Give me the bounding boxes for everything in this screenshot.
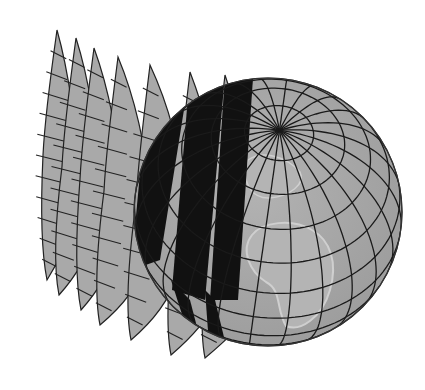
globe-illustration bbox=[0, 0, 425, 390]
globe-svg bbox=[0, 0, 425, 390]
